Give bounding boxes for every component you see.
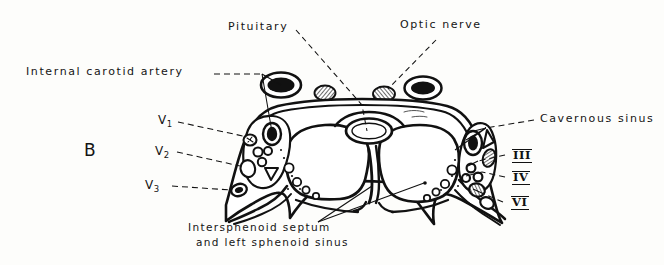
- label-optic-nerve: Optic nerve: [400, 19, 482, 30]
- label-v2-letter: V: [155, 144, 164, 158]
- anatomy-figure: [0, 0, 664, 265]
- carotid-oval-right-upper: [405, 77, 442, 100]
- label-v1: V1: [158, 114, 172, 129]
- label-v1-letter: V: [158, 113, 167, 127]
- pituitary-gland: [346, 119, 392, 144]
- label-nerve-vi: VI: [511, 196, 529, 210]
- optic-nerve-oval-left: [315, 86, 336, 101]
- caption-intersphenoid-septum-line2: and left sphenoid sinus: [196, 237, 349, 248]
- caption-intersphenoid-septum-line1: Intersphenoid septum: [188, 222, 331, 233]
- panel-label: B: [84, 142, 96, 159]
- label-internal-carotid-artery: Internal carotid artery: [26, 66, 184, 77]
- label-cavernous-sinus: Cavernous sinus: [540, 113, 654, 124]
- leader-v2: [177, 152, 240, 166]
- label-v1-subscript: 1: [167, 119, 172, 129]
- leader-v3: [172, 186, 231, 190]
- label-v3-subscript: 3: [154, 184, 159, 194]
- label-nerve-iv: IV: [512, 171, 530, 185]
- label-v2: V2: [155, 145, 169, 160]
- label-v3-letter: V: [145, 178, 154, 192]
- label-v3: V3: [145, 179, 159, 194]
- leader-v1: [178, 122, 243, 136]
- v2-structure: [241, 160, 256, 177]
- label-v2-subscript: 2: [164, 150, 169, 160]
- label-nerve-iii: III: [512, 149, 532, 163]
- leader-cavernous-dash: [486, 120, 534, 128]
- label-pituitary: Pituitary: [228, 21, 288, 32]
